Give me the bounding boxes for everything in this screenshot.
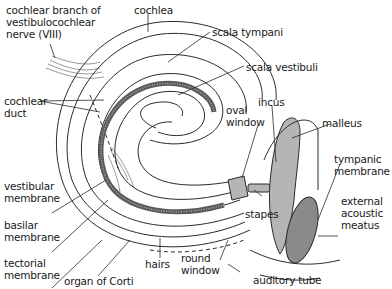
label-tympanic-membrane: tympanic membrane [334, 153, 390, 177]
label-round-window: round window [181, 252, 220, 276]
label-cochlea: cochlea [134, 4, 173, 16]
scala-tympani-wall [81, 54, 246, 226]
label-vestibular-membrane: vestibular membrane [4, 180, 60, 204]
cochlear-duct [101, 83, 224, 211]
label-auditory-tube: auditory tube [253, 274, 321, 286]
stapes-shape [228, 176, 248, 200]
cochlea-outer-wall-inner [67, 33, 262, 237]
label-scala-tympani: scala tympani [212, 26, 283, 38]
cochlea-diagram [0, 0, 392, 289]
label-scala-vestibuli: scala vestibuli [246, 61, 318, 73]
label-external-acoustic-meatus: external acoustic meatus [341, 195, 383, 231]
label-tectorial-membrane: tectorial membrane [4, 257, 60, 281]
label-basilar-membrane: basilar membrane [4, 219, 60, 243]
label-cochlear-duct: cochlear duct [4, 95, 47, 119]
label-oval-window: oval window [226, 104, 265, 128]
label-malleus: malleus [322, 117, 362, 129]
label-organ-of-corti: organ of Corti [64, 275, 133, 287]
label-nerve: cochlear branch of vestibulocochlear ner… [6, 4, 100, 40]
label-stapes: stapes [245, 208, 278, 220]
inner-spiral [141, 102, 183, 128]
label-hairs: hairs [145, 258, 170, 270]
